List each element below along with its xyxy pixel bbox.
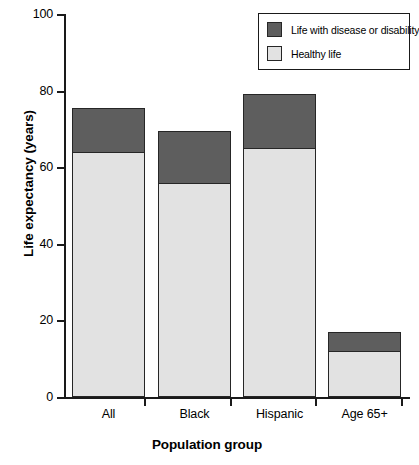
legend-swatch-healthy-icon [267, 46, 282, 61]
legend-item-healthy: Healthy life [267, 46, 341, 61]
x-tick-label-all: All [72, 407, 145, 421]
x-tick-label-age-65-plus: Age 65+ [328, 407, 401, 421]
y-tick-label-60: 60 [7, 161, 53, 173]
x-tick-mark-2 [230, 399, 232, 406]
y-tick-mark-20 [57, 320, 64, 322]
y-axis-line [64, 14, 66, 399]
legend: Life with disease or disability Healthy … [258, 13, 410, 70]
x-axis-title: Population group [0, 437, 414, 452]
y-tick-label-40: 40 [7, 238, 53, 250]
legend-label-disease: Life with disease or disability [291, 24, 419, 36]
bar-hispanic-segment-disease [243, 94, 316, 149]
bar-age-65-plus [328, 332, 401, 397]
bar-age-65-plus-segment-disease [328, 332, 401, 352]
x-axis-line [64, 397, 410, 399]
y-tick-mark-80 [57, 91, 64, 93]
y-axis-title: Life expectancy (years) [21, 64, 36, 304]
legend-label-healthy: Healthy life [291, 48, 341, 60]
x-tick-label-hispanic: Hispanic [243, 407, 316, 421]
x-tick-mark-3 [315, 399, 317, 406]
y-tick-label-0: 0 [7, 391, 53, 403]
bar-black-segment-healthy [158, 183, 231, 397]
x-tick-label-black: Black [158, 407, 231, 421]
y-tick-label-100: 100 [7, 8, 53, 20]
legend-swatch-disease-icon [267, 22, 282, 37]
y-tick-mark-100 [57, 14, 64, 16]
y-tick-mark-0 [57, 397, 64, 399]
y-tick-label-80: 80 [7, 85, 53, 97]
x-tick-mark-1 [144, 399, 146, 406]
bar-hispanic [243, 94, 316, 397]
legend-item-disease: Life with disease or disability [267, 22, 419, 37]
x-tick-mark-4 [401, 399, 403, 406]
bar-black-segment-disease [158, 131, 231, 184]
bar-all-segment-healthy [72, 152, 145, 397]
bar-all [72, 108, 145, 397]
bar-age-65-plus-segment-healthy [328, 351, 401, 397]
y-tick-label-20: 20 [7, 314, 53, 326]
bar-black [158, 131, 231, 397]
bar-hispanic-segment-healthy [243, 148, 316, 397]
bar-all-segment-disease [72, 108, 145, 153]
y-tick-mark-60 [57, 167, 64, 169]
y-tick-mark-40 [57, 244, 64, 246]
